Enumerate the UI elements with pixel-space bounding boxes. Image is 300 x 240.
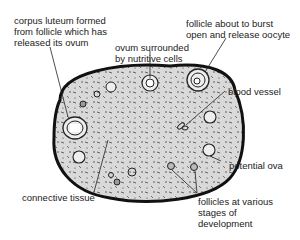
follicle-about-to-burst: [187, 69, 209, 91]
label-blood-vessel: blood vessel: [228, 86, 281, 97]
small-follicle: [191, 164, 198, 171]
label-connective-tissue: connective tissue: [22, 192, 95, 203]
small-follicle: [168, 163, 175, 170]
label-follicles-various-stages: follicles at various stages of developme…: [198, 196, 273, 229]
small-follicle: [114, 179, 120, 185]
label-corpus-luteum: corpus luteum formed from follicle which…: [14, 15, 107, 48]
small-follicle: [80, 101, 86, 107]
label-follicle-about-to-burst: follicle about to burst open and release…: [186, 18, 290, 40]
small-follicle: [204, 111, 216, 123]
small-follicle: [73, 151, 85, 163]
small-follicle: [106, 82, 116, 92]
corpus-luteum: [63, 117, 87, 139]
label-potential-ova: potential ova: [229, 160, 283, 171]
potential-ovum: [203, 144, 215, 156]
label-ovum-surrounded: ovum surrounded by nutritive cells: [115, 42, 189, 64]
